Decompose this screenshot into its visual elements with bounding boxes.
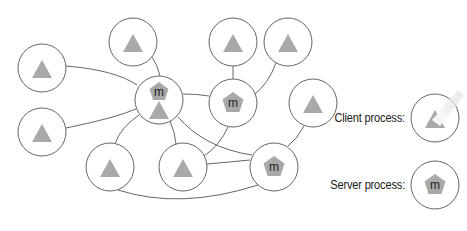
client-node-H — [289, 79, 337, 127]
legend: m — [411, 90, 464, 209]
client-node-B — [18, 108, 66, 156]
server-symbol: m — [430, 178, 440, 192]
client-node-E — [264, 18, 312, 66]
client-node-D — [209, 18, 257, 66]
client-node-J — [159, 143, 207, 191]
process-nodes: mmm — [18, 18, 337, 191]
server-node-K: m — [250, 143, 298, 191]
client-node-C — [109, 18, 157, 66]
legend-server-node: m — [411, 161, 459, 209]
client-node-I — [86, 143, 134, 191]
client-node-A — [18, 44, 66, 92]
edge-A-F — [66, 66, 137, 85]
edge-F-J — [170, 121, 176, 144]
server-symbol: m — [269, 160, 279, 174]
edge-B-F — [66, 109, 136, 128]
legend-server-label: Server process: — [330, 177, 405, 192]
edge-E-G — [255, 63, 276, 94]
legend-client-label: Client process: — [334, 110, 405, 125]
edge-G-J — [204, 127, 228, 156]
server-symbol: m — [228, 96, 238, 110]
server-node-G: m — [209, 79, 257, 127]
edge-F-G — [183, 94, 209, 96]
edge-C-F — [152, 57, 160, 76]
edge-H-K — [288, 126, 304, 146]
edge-J-K — [207, 160, 250, 164]
edge-F-I — [115, 115, 139, 144]
server-symbol: m — [154, 85, 164, 99]
server-node-F: m — [135, 76, 183, 124]
